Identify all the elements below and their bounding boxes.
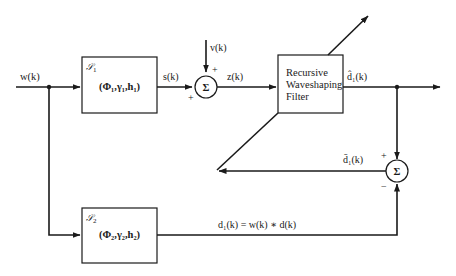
block-diagram: w(k) 𝒮 1 (Φ₁,γ₁,h₁) s(k) v(k) Σ + + z(k)…: [0, 0, 456, 276]
system2-subscript: 2: [93, 217, 97, 225]
signal-d-equation: d₁(k) = w(k) ∗ d(k): [218, 219, 296, 231]
summer-right-sign-top: +: [381, 150, 387, 161]
filter-label-line1: Recursive: [286, 67, 328, 78]
signal-v-label: v(k): [210, 42, 227, 54]
signal-dbar-label: d̄₁(k): [343, 154, 363, 166]
filter-label-line3: Filter: [286, 91, 309, 102]
summer-top-glyph: Σ: [203, 82, 210, 93]
filter-label-line2: Waveshaping: [286, 79, 343, 90]
system1-params: (Φ₁,γ₁,h₁): [99, 81, 141, 93]
system2-params: (Φ₂,γ₂,h₂): [99, 229, 141, 241]
input-line-w: [16, 85, 80, 235]
summer-right-sign-bottom: −: [381, 181, 387, 192]
signal-s-label: s(k): [163, 71, 179, 83]
system1-subscript: 1: [93, 66, 97, 74]
signal-dhat-label: d̂₁(k): [347, 70, 367, 83]
summer-top-sign-top: +: [212, 64, 218, 75]
summer-right-glyph: Σ: [394, 166, 401, 177]
input-label-w: w(k): [20, 71, 40, 83]
signal-z-label: z(k): [227, 71, 243, 83]
summer-top-sign-left: +: [188, 92, 194, 103]
